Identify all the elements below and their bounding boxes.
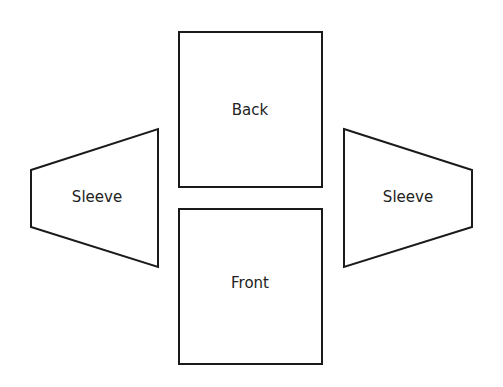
right-sleeve-piece: Sleeve (344, 129, 472, 267)
back-label: Back (232, 101, 269, 119)
right-sleeve-label: Sleeve (383, 188, 433, 206)
front-label: Front (231, 274, 269, 292)
left-sleeve-piece: Sleeve (31, 129, 158, 267)
back-piece: Back (179, 32, 322, 187)
garment-pattern-diagram: Back Front Sleeve Sleeve (0, 0, 503, 387)
left-sleeve-label: Sleeve (72, 188, 122, 206)
front-piece: Front (179, 209, 322, 364)
